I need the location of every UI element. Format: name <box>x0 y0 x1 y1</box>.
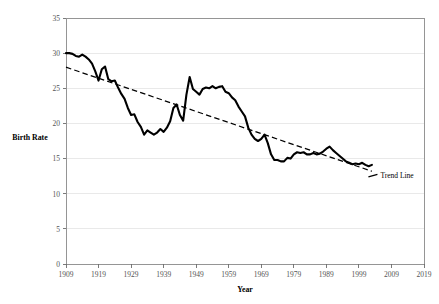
x-tick-label: 1919 <box>91 270 106 279</box>
birth-rate-chart: 1909191919291939194919591969197919891999… <box>0 0 439 304</box>
x-tick-label: 1929 <box>124 270 139 279</box>
x-tick-label: 1979 <box>286 270 301 279</box>
x-tick-label: 2019 <box>417 270 432 279</box>
x-tick-label: 2009 <box>384 270 399 279</box>
y-axis-title: Birth Rate <box>12 133 48 142</box>
y-tick-label: 0 <box>56 260 60 269</box>
x-tick-label: 1999 <box>351 270 366 279</box>
y-tick-label: 10 <box>53 190 61 199</box>
y-tick-label: 5 <box>56 225 60 234</box>
y-tick-label: 35 <box>53 14 61 23</box>
trend-line-annotation: Trend Line <box>380 171 414 180</box>
x-tick-label: 1959 <box>221 270 236 279</box>
x-tick-label: 1939 <box>156 270 171 279</box>
y-tick-label: 15 <box>53 154 61 163</box>
x-tick-label: 1989 <box>319 270 334 279</box>
y-tick-label: 25 <box>53 84 61 93</box>
x-tick-label: 1909 <box>59 270 74 279</box>
chart-canvas: 1909191919291939194919591969197919891999… <box>0 0 439 304</box>
y-tick-label: 30 <box>53 49 61 58</box>
x-tick-label: 1949 <box>189 270 204 279</box>
y-tick-label: 20 <box>53 119 61 128</box>
x-tick-label: 1969 <box>254 270 269 279</box>
x-axis-title: Year <box>237 285 253 294</box>
